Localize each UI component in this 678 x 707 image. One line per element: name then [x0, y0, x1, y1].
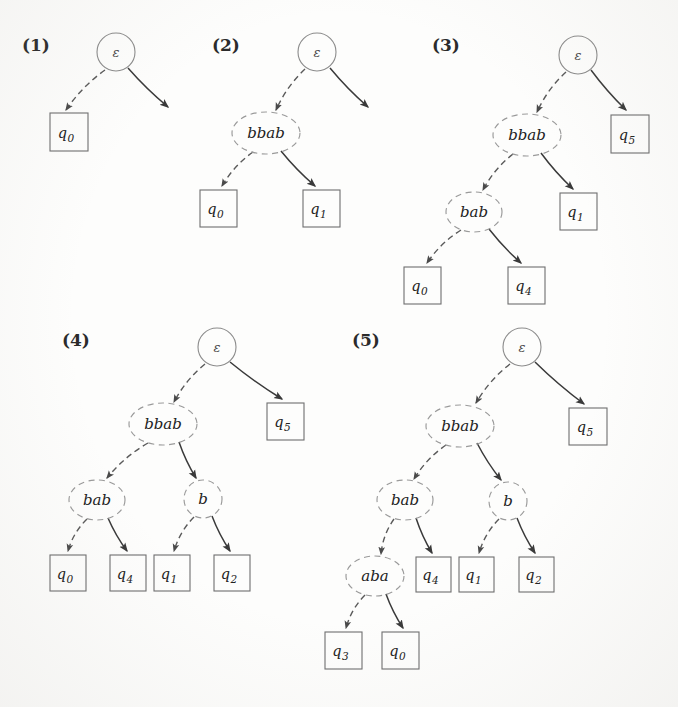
node-label-t4-node-b: b	[198, 490, 208, 508]
state-letter: q	[274, 414, 283, 430]
edge-t3-node-bab-to-leaf-q0	[427, 230, 461, 263]
node-label-t5-node-b: b	[503, 492, 513, 510]
state-index: 0	[68, 132, 75, 144]
state-letter: q	[465, 567, 474, 583]
state-letter: q	[58, 125, 67, 141]
state-index: 1	[577, 211, 584, 223]
node-label-t3-node-bab: bab	[460, 203, 488, 221]
state-index: 0	[67, 573, 74, 585]
edge-t4-node-bab-to-leaf-q4	[108, 518, 127, 551]
edge-t5-root-5-to-node-bbab	[476, 364, 510, 403]
edge-t4-root-4-to-node-bbab	[174, 364, 205, 402]
edge-t4-node-bbab-to-node-b	[179, 442, 196, 478]
state-letter: q	[525, 567, 534, 583]
edge-t4-node-bbab-to-node-bab	[107, 443, 148, 478]
state-index: 0	[217, 208, 224, 220]
state-index: 1	[475, 574, 482, 586]
state-index: 0	[421, 285, 428, 297]
edge-t2-node-bbab-to-leaf-q1	[281, 151, 315, 186]
state-letter: q	[515, 278, 524, 294]
edge-t5-node-aba-to-leaf-q3	[346, 595, 365, 628]
state-index: 5	[284, 421, 291, 433]
state-index: 1	[320, 208, 327, 220]
state-index: 5	[629, 134, 636, 146]
node-label-t5-node-bbab: bbab	[441, 417, 479, 435]
edge-t5-node-bab-to-node-aba	[381, 519, 394, 554]
node-label-t4-node-bab: bab	[83, 491, 111, 509]
state-index: 4	[524, 285, 532, 297]
edge-t3-root-3-to-node-bbab	[537, 72, 566, 112]
edge-t5-node-bab-to-leaf-q4	[416, 518, 432, 553]
nodes-layer: εq0εbbabq0q1εbbabbabq5q1q0q4εbbabbabbq5q…	[50, 33, 649, 669]
state-index: 1	[171, 573, 178, 585]
state-index: 5	[587, 426, 594, 438]
edge-t1-root-1-to-dangling	[128, 68, 168, 107]
edge-t4-node-bab-to-leaf-q0	[68, 519, 87, 551]
tree-label-t3: (3)	[432, 35, 460, 55]
node-label-t4-node-bbab: bbab	[144, 415, 182, 433]
group-labels-layer: (1)(2)(3)(4)(5)	[22, 35, 460, 350]
state-letter: q	[411, 278, 420, 294]
state-letter: q	[577, 419, 586, 435]
state-letter: q	[619, 127, 628, 143]
state-index: 2	[230, 573, 238, 585]
state-letter: q	[567, 204, 576, 220]
node-label-t5-node-aba: aba	[361, 567, 389, 585]
state-letter: q	[422, 567, 431, 583]
node-label-t2-node-bbab: bbab	[247, 124, 285, 142]
node-label-t3-root: ε	[575, 48, 582, 63]
edge-t2-node-bbab-to-leaf-q0	[222, 152, 253, 186]
edge-t5-node-aba-to-leaf-q0	[386, 594, 403, 628]
state-index: 4	[126, 573, 134, 585]
tree-diagram-svg: εq0εbbabq0q1εbbabbabq5q1q0q4εbbabbabbq5q…	[0, 0, 678, 707]
node-label-t4-root: ε	[214, 340, 221, 355]
edges-layer	[66, 68, 626, 628]
state-letter: q	[221, 566, 230, 582]
edge-t5-node-bbab-to-node-b	[477, 443, 501, 480]
state-letter: q	[57, 566, 66, 582]
state-index: 4	[431, 574, 439, 586]
edge-t3-node-bab-to-leaf-q4	[489, 229, 521, 263]
tree-label-t4: (4)	[62, 330, 90, 350]
node-label-t3-node-bbab: bbab	[508, 126, 546, 144]
edge-t4-node-b-to-leaf-q1	[174, 517, 194, 551]
state-letter: q	[389, 643, 398, 659]
figure-canvas: εq0εbbabq0q1εbbabbabq5q1q0q4εbbabbabbq5q…	[0, 0, 678, 707]
node-label-t5-node-bab: bab	[391, 491, 419, 509]
state-index: 2	[534, 574, 542, 586]
tree-label-t2: (2)	[212, 35, 240, 55]
edge-t5-node-bbab-to-node-bab	[414, 445, 446, 479]
state-index: 0	[399, 650, 406, 662]
node-label-t5-root: ε	[519, 340, 526, 355]
node-label-t2-root: ε	[314, 45, 321, 60]
state-letter: q	[310, 201, 319, 217]
edge-t2-root-2-to-dangling	[330, 68, 368, 107]
edge-t4-node-b-to-leaf-q2	[212, 516, 230, 551]
node-label-t1-root: ε	[113, 45, 120, 60]
edge-t3-node-bbab-to-node-bab	[483, 154, 513, 190]
edge-t2-root-2-to-node-bbab	[276, 69, 305, 110]
state-letter: q	[117, 566, 126, 582]
state-letter: q	[207, 201, 216, 217]
edge-t1-root-1-to-leaf-q0	[66, 70, 105, 110]
state-letter: q	[161, 566, 170, 582]
tree-label-t5: (5)	[352, 330, 380, 350]
edge-t5-root-5-to-leaf-q5	[535, 362, 584, 404]
edge-t5-node-b-to-leaf-q1	[479, 519, 499, 553]
edge-t3-root-3-to-leaf-q5	[591, 70, 626, 110]
edge-t5-node-b-to-leaf-q2	[517, 518, 535, 553]
state-letter: q	[332, 643, 341, 659]
state-index: 3	[342, 650, 349, 662]
tree-label-t1: (1)	[22, 35, 50, 55]
edge-t3-node-bbab-to-leaf-q1	[541, 153, 573, 189]
edge-t4-root-4-to-leaf-q5	[230, 362, 282, 399]
